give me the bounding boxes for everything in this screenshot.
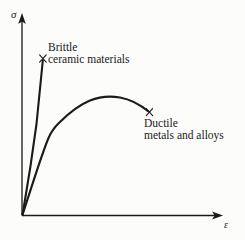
annotation-brittle-line2: ceramic materials [48,53,129,65]
y-axis [18,13,26,216]
annotation-brittle-ceramic: Brittle ceramic materials [48,41,129,65]
annotation-ductile-line2: metals and alloys [144,129,224,141]
annotation-brittle-line1: Brittle [48,41,129,53]
brittle-ceramic-curve [23,61,43,215]
ductile-fracture-x-marker [146,109,152,116]
annotation-ductile-metals: Ductile metals and alloys [144,117,224,141]
y-axis-label-sigma: σ [11,9,16,20]
stress-strain-diagram: σ ε Brittle ceramic materials Ductile me… [0,0,245,240]
annotation-ductile-line1: Ductile [144,117,224,129]
x-axis [22,212,223,220]
x-axis-label-epsilon: ε [224,220,228,230]
ductile-metals-curve [23,97,149,215]
